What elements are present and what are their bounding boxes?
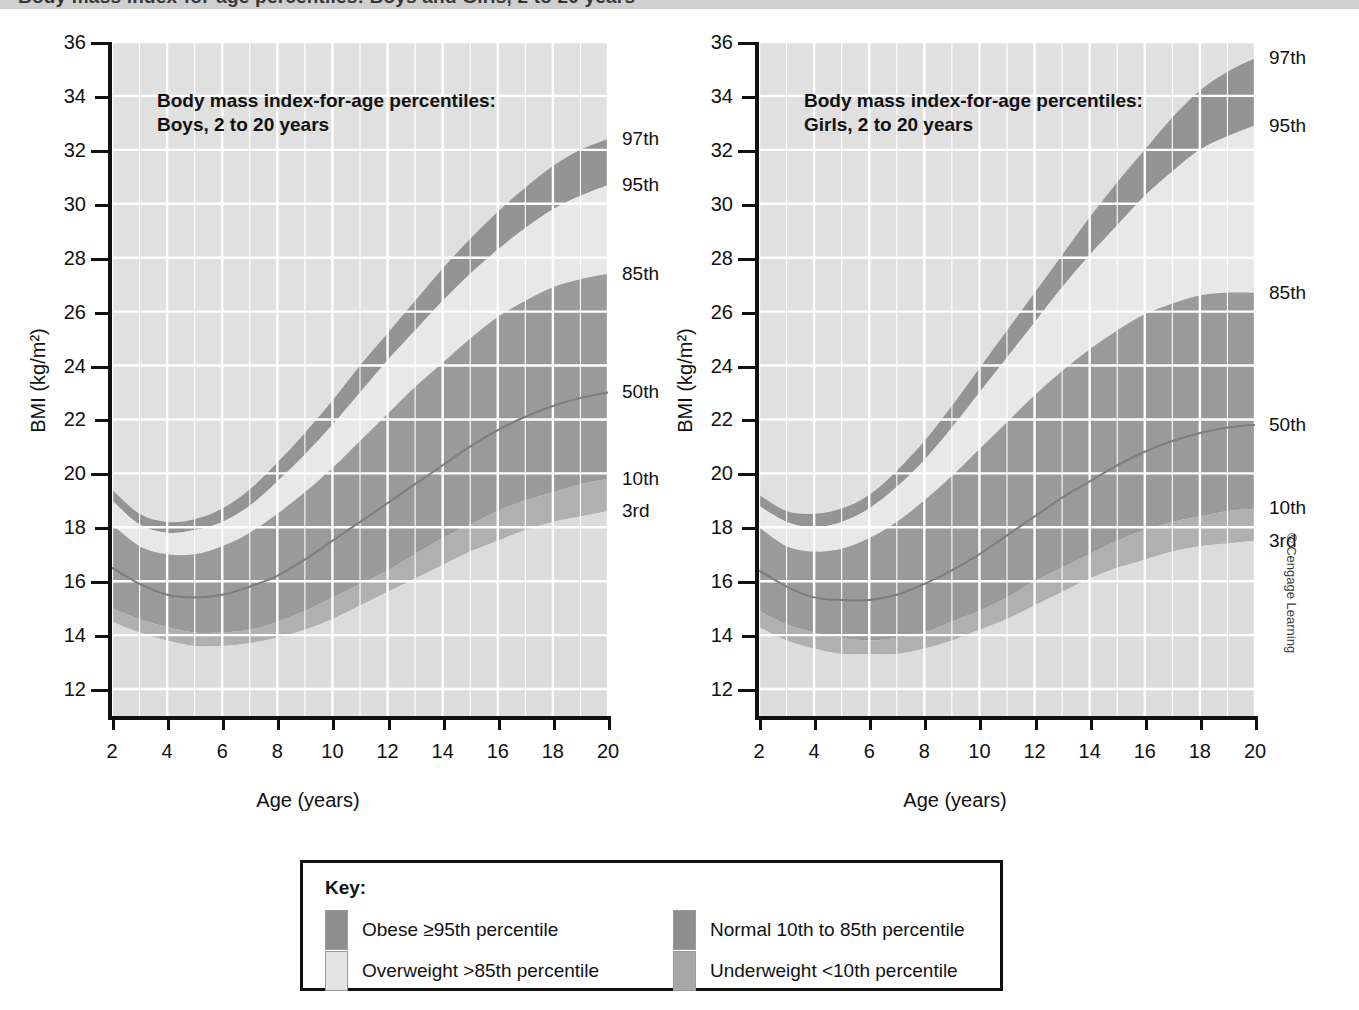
y-tick xyxy=(738,473,755,476)
percentile-label-85th: 85th xyxy=(1269,282,1306,304)
y-tick xyxy=(91,473,108,476)
x-tick xyxy=(112,716,115,730)
x-tick xyxy=(443,716,446,730)
x-tick-label: 18 xyxy=(542,740,564,763)
x-tick xyxy=(814,716,817,730)
x-tick xyxy=(1090,716,1093,730)
key-item-obese: Obese ≥95th percentile xyxy=(325,910,558,950)
key-swatch-overweight xyxy=(325,951,348,991)
x-tick xyxy=(553,716,556,730)
key-item-normal: Normal 10th to 85th percentile xyxy=(673,910,965,950)
key-swatch-normal xyxy=(673,910,696,950)
bmi-percentile-figure: 97th95th85th50th10th3rd 1214161820222426… xyxy=(0,9,1359,1010)
y-tick xyxy=(95,419,108,422)
y-tick-label: 32 xyxy=(673,138,733,161)
key-label-overweight: Overweight >85th percentile xyxy=(362,960,599,982)
y-tick-label: 30 xyxy=(673,192,733,215)
x-tick xyxy=(332,716,335,730)
x-tick-label: 20 xyxy=(597,740,619,763)
x-tick xyxy=(167,716,170,730)
y-axis-title-girls: BMI (kg/m²) xyxy=(674,281,697,481)
percentile-label-97th: 97th xyxy=(1269,47,1306,69)
x-tick-label: 16 xyxy=(1134,740,1156,763)
y-tick xyxy=(742,635,755,638)
x-tick-label: 4 xyxy=(809,740,820,763)
y-tick xyxy=(91,689,108,692)
y-axis-title-boys: BMI (kg/m²) xyxy=(27,281,50,481)
x-tick-label: 6 xyxy=(217,740,228,763)
key-item-underweight: Underweight <10th percentile xyxy=(673,951,958,991)
x-tick-label: 14 xyxy=(432,740,454,763)
y-tick xyxy=(95,527,108,530)
y-tick-label: 18 xyxy=(673,516,733,539)
percentile-label-85th: 85th xyxy=(622,263,659,285)
y-tick-label: 12 xyxy=(673,678,733,701)
y-tick xyxy=(91,42,108,45)
x-tick-label: 12 xyxy=(376,740,398,763)
y-tick-label: 28 xyxy=(673,246,733,269)
y-tick xyxy=(742,96,755,99)
x-tick xyxy=(979,716,982,730)
y-tick xyxy=(738,689,755,692)
y-tick xyxy=(95,312,108,315)
y-tick xyxy=(95,204,108,207)
chart-title-girls: Body mass index-for-age percentiles: Gir… xyxy=(804,89,1143,136)
percentile-label-50th: 50th xyxy=(1269,414,1306,436)
y-tick-label: 34 xyxy=(673,84,733,107)
key-legend-box: Key: Obese ≥95th percentile Overweight >… xyxy=(300,860,1003,991)
y-tick xyxy=(742,419,755,422)
x-tick xyxy=(1145,716,1148,730)
percentile-label-95th: 95th xyxy=(622,174,659,196)
y-tick-label: 28 xyxy=(26,246,86,269)
y-tick xyxy=(95,96,108,99)
y-tick xyxy=(738,150,755,153)
x-tick-label: 8 xyxy=(272,740,283,763)
x-tick-label: 8 xyxy=(919,740,930,763)
y-tick-label: 12 xyxy=(26,678,86,701)
y-tick xyxy=(738,42,755,45)
key-label-obese: Obese ≥95th percentile xyxy=(362,919,558,941)
x-tick xyxy=(1035,716,1038,730)
y-tick-label: 16 xyxy=(673,570,733,593)
plot-wrap-boys: 97th95th85th50th10th3rd xyxy=(108,42,608,720)
y-tick xyxy=(91,150,108,153)
x-axis-title-boys: Age (years) xyxy=(208,789,408,812)
y-tick xyxy=(91,258,108,261)
y-tick-label: 14 xyxy=(673,624,733,647)
x-tick-label: 6 xyxy=(864,740,875,763)
y-tick-label: 18 xyxy=(26,516,86,539)
x-tick xyxy=(1200,716,1203,730)
x-tick xyxy=(498,716,501,730)
percentile-label-3rd: 3rd xyxy=(622,500,649,522)
plot-wrap-girls: 97th95th85th50th10th3rd xyxy=(755,42,1255,720)
y-tick xyxy=(738,366,755,369)
copyright-credit: © Cengage Learning xyxy=(1284,533,1299,653)
plot-area-girls xyxy=(759,42,1255,716)
key-title: Key: xyxy=(325,877,366,899)
key-swatch-underweight xyxy=(673,951,696,991)
y-tick xyxy=(95,635,108,638)
key-item-overweight: Overweight >85th percentile xyxy=(325,951,599,991)
percentile-label-10th: 10th xyxy=(1269,497,1306,519)
percentile-label-95th: 95th xyxy=(1269,115,1306,137)
percentile-label-10th: 10th xyxy=(622,468,659,490)
x-tick xyxy=(222,716,225,730)
x-tick xyxy=(1255,716,1258,730)
x-tick-label: 16 xyxy=(487,740,509,763)
x-tick xyxy=(608,716,611,730)
banner-text: Body mass index-for-age percentiles: Boy… xyxy=(18,0,635,8)
x-tick-label: 2 xyxy=(106,740,117,763)
x-tick-label: 20 xyxy=(1244,740,1266,763)
cropped-title-banner: Body mass index-for-age percentiles: Boy… xyxy=(0,0,1359,9)
y-tick-label: 14 xyxy=(26,624,86,647)
y-tick xyxy=(738,258,755,261)
x-tick xyxy=(759,716,762,730)
y-tick xyxy=(742,527,755,530)
x-tick-label: 12 xyxy=(1023,740,1045,763)
chart-title-boys: Body mass index-for-age percentiles: Boy… xyxy=(157,89,496,136)
key-label-underweight: Underweight <10th percentile xyxy=(710,960,958,982)
plot-area-boys xyxy=(112,42,608,716)
y-tick xyxy=(91,366,108,369)
y-tick-label: 34 xyxy=(26,84,86,107)
x-axis-title-girls: Age (years) xyxy=(855,789,1055,812)
